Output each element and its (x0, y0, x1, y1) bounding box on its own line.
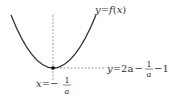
svg-text:1: 1 (146, 60, 151, 69)
svg-text:−1: −1 (154, 63, 169, 74)
minimum-value-label: y=2a− 1 a −1 (106, 60, 169, 79)
svg-text:y=2a−: y=2a− (106, 63, 143, 74)
svg-text:a: a (65, 87, 70, 96)
parabola-curve (11, 15, 96, 68)
axis-of-symmetry-label: x=− 1 a (36, 76, 71, 96)
vertex-point (51, 66, 55, 70)
svg-text:x=−: x=− (36, 78, 58, 89)
curve-label: y=f(x) (94, 4, 126, 15)
svg-text:1: 1 (64, 76, 69, 85)
parabola-diagram: y=f(x) y=2a− 1 a −1 x=− 1 a (0, 0, 169, 97)
svg-text:a: a (147, 70, 152, 79)
